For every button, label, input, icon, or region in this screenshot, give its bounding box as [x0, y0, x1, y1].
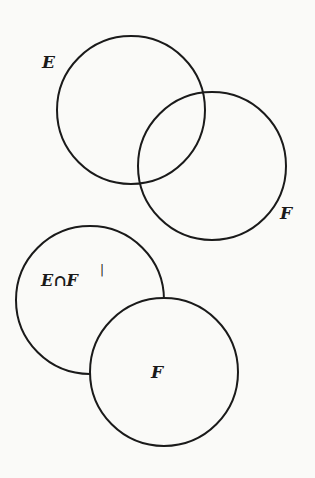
label-f: F: [279, 203, 294, 223]
label-e-intersect-f: E∩F: [40, 271, 80, 290]
label-e: E: [41, 52, 56, 72]
venn-diagram: E F E∩F | F: [0, 0, 315, 478]
top-venn: E F: [41, 36, 294, 240]
label-prime: |: [100, 263, 104, 277]
label-f-lower: F: [150, 362, 165, 382]
circle-e-intersect-f-complement: [16, 226, 164, 374]
circle-f-lower: [90, 298, 238, 446]
circle-f: [138, 92, 286, 240]
label-e-intersect-f-complement: E∩F: [40, 271, 80, 290]
bottom-venn: E∩F | F: [16, 226, 238, 446]
circle-e: [57, 36, 205, 184]
